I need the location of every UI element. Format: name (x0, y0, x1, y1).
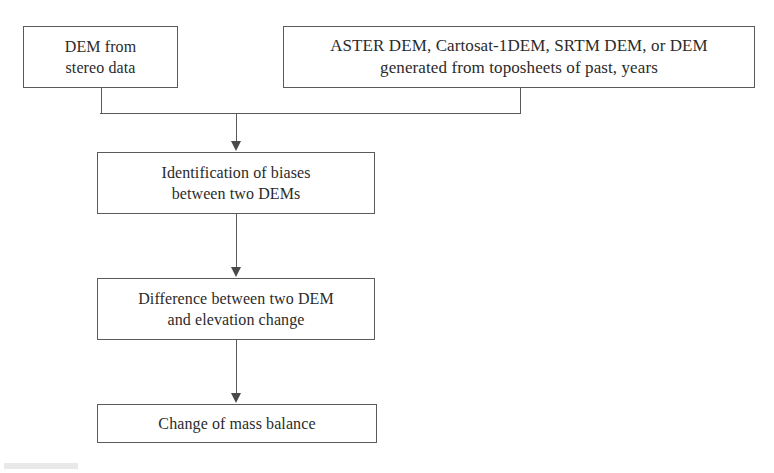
node-bias-identification-label: Identification of biases between two DEM… (155, 162, 316, 204)
node-mass-balance-label: Change of mass balance (152, 413, 321, 434)
node-archive-dem: ASTER DEM, Cartosat-1DEM, SRTM DEM, or D… (283, 26, 755, 88)
node-archive-dem-label: ASTER DEM, Cartosat-1DEM, SRTM DEM, or D… (324, 35, 714, 80)
flowchart-canvas: DEM from stereo data ASTER DEM, Cartosat… (0, 0, 774, 473)
edge-difference-to-mass-balance (236, 340, 238, 394)
node-stereo-dem-label: DEM from stereo data (59, 36, 142, 78)
node-dem-difference: Difference between two DEM and elevation… (97, 278, 375, 340)
arrowhead-merge-to-bias-icon (231, 141, 241, 151)
edge-bias-to-difference (236, 214, 238, 268)
node-stereo-dem: DEM from stereo data (23, 26, 178, 88)
scan-artifact (4, 463, 78, 469)
node-dem-difference-label: Difference between two DEM and elevation… (132, 288, 340, 330)
node-bias-identification: Identification of biases between two DEM… (97, 152, 375, 214)
arrowhead-difference-to-mass-balance-icon (231, 393, 241, 403)
node-mass-balance: Change of mass balance (97, 404, 377, 443)
edge-merge-to-bias (236, 113, 238, 143)
arrowhead-bias-to-difference-icon (231, 267, 241, 277)
edge-archive-dem-stem (520, 88, 522, 114)
edge-merge-bar (100, 113, 520, 115)
edge-stereo-dem-stem (101, 88, 103, 114)
